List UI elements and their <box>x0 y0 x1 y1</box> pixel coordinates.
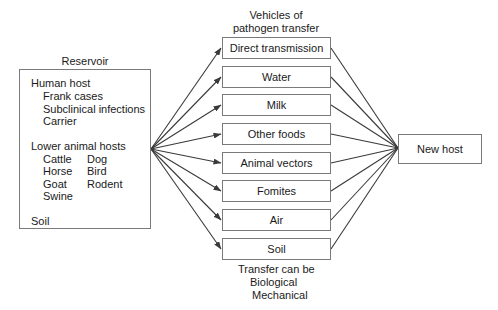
arrow-to-soil <box>151 149 221 249</box>
vehicle-animal-vectors: Animal vectors <box>222 152 331 174</box>
animal-host-item: Swine <box>43 190 73 203</box>
line-from-animal-vectors <box>331 148 398 163</box>
lower-animal-hosts-heading: Lower animal hosts <box>31 140 126 153</box>
reservoir-title: Reservoir <box>19 55 151 68</box>
vehicle-direct-transmission: Direct transmission <box>222 37 331 59</box>
vehicle-other-foods: Other foods <box>222 123 331 145</box>
new-host-label: New host <box>417 143 463 155</box>
vehicles-title-line2: pathogen transfer <box>206 22 346 35</box>
soil-reservoir: Soil <box>31 215 49 228</box>
animal-host-item: Rodent <box>87 178 122 191</box>
vehicles-title-line1: Vehicles of <box>206 9 346 22</box>
transfer-note-biological: Biological <box>250 276 297 289</box>
line-from-water <box>331 77 398 148</box>
transfer-note-mechanical: Mechanical <box>252 289 308 302</box>
animal-host-item: Goat <box>43 178 67 191</box>
reservoir-box: Human host Frank cases Subclinical infec… <box>19 69 151 229</box>
animal-host-item: Dog <box>87 153 107 166</box>
vehicle-to-new-host-lines <box>331 48 398 249</box>
human-host-item: Carrier <box>43 115 77 128</box>
human-host-item: Frank cases <box>43 90 103 103</box>
transfer-note-line1: Transfer can be <box>238 263 315 276</box>
reservoir-to-vehicle-arrows <box>151 48 221 249</box>
arrow-to-animal-vectors <box>151 149 221 163</box>
arrow-to-milk <box>151 105 221 149</box>
arrow-to-water <box>151 77 221 149</box>
line-from-direct-transmission <box>331 48 398 148</box>
vehicle-milk: Milk <box>222 94 331 116</box>
vehicle-water: Water <box>222 66 331 88</box>
animal-host-item: Bird <box>87 165 107 178</box>
vehicle-soil: Soil <box>222 238 331 260</box>
line-from-soil <box>331 148 398 249</box>
arrow-to-other-foods <box>151 134 221 149</box>
animal-host-item: Cattle <box>43 153 72 166</box>
new-host-box: New host <box>398 134 482 164</box>
arrow-to-direct-transmission <box>151 48 221 149</box>
human-host-item: Subclinical infections <box>43 103 145 116</box>
vehicle-fomites: Fomites <box>222 180 331 202</box>
vehicle-air: Air <box>222 209 331 231</box>
animal-host-item: Horse <box>43 165 72 178</box>
human-host-heading: Human host <box>31 77 90 90</box>
